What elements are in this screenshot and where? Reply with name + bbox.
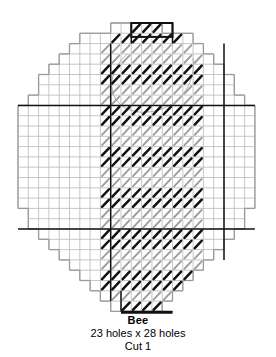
stitch-mark: [112, 45, 119, 52]
stitch-mark: [143, 200, 150, 207]
stitch-mark: [112, 86, 119, 93]
stitch-mark: [133, 86, 140, 93]
stitch-mark: [133, 127, 140, 134]
stitch-mark: [123, 169, 130, 176]
stitch-mark: [102, 55, 109, 62]
stitch-mark: [133, 45, 140, 52]
stitch-mark: [174, 148, 181, 155]
stitch-mark: [195, 107, 202, 114]
stitch-mark: [154, 66, 161, 73]
stitch-mark: [154, 86, 161, 93]
stitch-mark: [133, 138, 140, 145]
stitch-mark: [133, 169, 140, 176]
stitch-mark: [195, 138, 202, 145]
stitch-mark: [143, 251, 150, 258]
stitch-mark: [112, 148, 119, 155]
stitch-mark: [174, 97, 181, 104]
stitch-mark: [123, 138, 130, 145]
stitch-mark: [174, 107, 181, 114]
stitch-mark: [143, 35, 150, 42]
stitch-mark: [184, 189, 191, 196]
stitch-mark: [195, 200, 202, 207]
stitch-mark: [195, 127, 202, 134]
stitch-mark: [143, 272, 150, 279]
stitch-mark: [174, 35, 181, 42]
stitch-mark: [164, 282, 171, 289]
stitch-mark: [143, 230, 150, 237]
stitch-mark: [102, 251, 109, 258]
stitch-mark: [123, 97, 130, 104]
stitch-mark: [154, 292, 161, 299]
stitch-mark: [164, 241, 171, 248]
stitch-mark: [133, 272, 140, 279]
stitch-mark: [174, 179, 181, 186]
stitch-mark: [133, 200, 140, 207]
stitch-mark: [174, 158, 181, 165]
stitch-mark: [133, 35, 140, 42]
stitch-mark: [164, 97, 171, 104]
stitch-mark: [112, 210, 119, 217]
stitch-mark: [102, 127, 109, 134]
stitch-mark: [143, 127, 150, 134]
stitch-mark: [123, 210, 130, 217]
stitch-mark: [164, 210, 171, 217]
stitch-mark: [154, 272, 161, 279]
stitch-mark: [164, 251, 171, 258]
stitch-mark: [195, 230, 202, 237]
stitch-mark: [133, 189, 140, 196]
stitch-mark: [164, 189, 171, 196]
stitch-mark: [164, 148, 171, 155]
stitch-mark: [123, 148, 130, 155]
stitch-mark: [143, 282, 150, 289]
pattern-title: Bee: [0, 314, 276, 326]
stitch-mark: [112, 230, 119, 237]
stitch-mark: [154, 55, 161, 62]
stitch-mark: [112, 138, 119, 145]
stitch-mark: [112, 251, 119, 258]
stitch-mark: [133, 220, 140, 227]
stitch-mark: [102, 200, 109, 207]
stitch-mark: [112, 76, 119, 83]
stitch-mark: [123, 251, 130, 258]
stitch-mark: [123, 241, 130, 248]
stitch-mark: [174, 220, 181, 227]
stitch-mark: [143, 169, 150, 176]
stitch-mark: [133, 117, 140, 124]
stitch-mark: [102, 272, 109, 279]
stitch-mark: [184, 127, 191, 134]
stitch-mark: [184, 179, 191, 186]
stitch-mark: [154, 189, 161, 196]
stitch-mark: [195, 66, 202, 73]
stitch-mark: [102, 66, 109, 73]
stitch-mark: [112, 272, 119, 279]
stitch-mark: [112, 117, 119, 124]
stitch-mark: [154, 127, 161, 134]
stitch-mark: [195, 261, 202, 268]
pattern-size-label: 23 holes x 28 holes: [0, 327, 276, 339]
stitch-mark: [143, 261, 150, 268]
stitch-mark: [174, 230, 181, 237]
stitch-mark: [112, 158, 119, 165]
stitch-mark: [123, 158, 130, 165]
stitch-mark: [112, 179, 119, 186]
stitch-mark: [143, 117, 150, 124]
stitch-mark: [164, 55, 171, 62]
stitch-mark: [102, 45, 109, 52]
stitch-mark: [184, 148, 191, 155]
stitch-mark: [143, 97, 150, 104]
stitch-mark: [123, 86, 130, 93]
stitch-mark: [174, 138, 181, 145]
stitch-mark: [154, 148, 161, 155]
stitch-mark: [123, 179, 130, 186]
stitch-mark: [154, 158, 161, 165]
stitch-mark: [154, 200, 161, 207]
stitch-mark: [112, 66, 119, 73]
stitch-mark: [123, 127, 130, 134]
stitch-mark: [133, 261, 140, 268]
stitch-mark: [143, 24, 150, 31]
stitch-mark: [143, 303, 150, 310]
stitch-mark: [174, 45, 181, 52]
stitch-mark: [133, 241, 140, 248]
stitch-mark: [195, 97, 202, 104]
stitch-mark: [133, 292, 140, 299]
